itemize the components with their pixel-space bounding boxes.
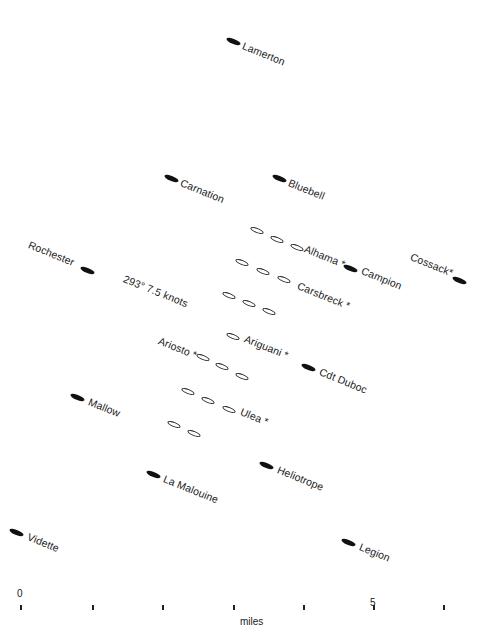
scale-tick xyxy=(443,605,445,610)
merchant-ship-icon xyxy=(262,307,277,317)
escort-ship-icon xyxy=(259,460,275,470)
scale-tick xyxy=(303,605,305,610)
escort-ship-icon xyxy=(70,392,86,402)
merchant-ship-icon xyxy=(215,362,230,372)
escort-ship-icon xyxy=(9,527,25,537)
scale-tick xyxy=(162,605,164,610)
escort-label: Vidette xyxy=(26,530,61,554)
escort-ship-icon xyxy=(341,537,357,547)
scale-tick xyxy=(20,605,22,610)
escort-ship-icon xyxy=(301,362,317,372)
escort-label: Legion xyxy=(358,540,392,563)
scale-unit-label: miles xyxy=(240,616,263,627)
merchant-ship-icon xyxy=(235,258,250,268)
merchant-ship-icon xyxy=(226,332,241,342)
merchant-ship-icon xyxy=(270,235,285,245)
merchant-label: Ulea * xyxy=(239,405,271,427)
escort-label: Cossack* xyxy=(409,250,455,278)
merchant-ship-icon xyxy=(242,299,257,309)
escort-ship-icon xyxy=(272,173,288,183)
escort-label: Rochester xyxy=(27,238,77,267)
merchant-ship-icon xyxy=(222,405,237,415)
escort-label: Cdt Duboc xyxy=(318,365,369,395)
merchant-label: Carsbreck * xyxy=(296,279,352,311)
merchant-ship-icon xyxy=(256,267,271,277)
merchant-ship-icon xyxy=(290,243,305,253)
merchant-ship-icon xyxy=(250,226,265,236)
scale-tick xyxy=(233,605,235,610)
merchant-label: Ariguani * xyxy=(243,332,291,361)
escort-ship-icon xyxy=(146,469,162,479)
escort-ship-icon xyxy=(452,275,468,285)
merchant-ship-icon xyxy=(201,396,216,406)
merchant-ship-icon xyxy=(181,387,196,397)
escort-label: Carnation xyxy=(179,176,227,205)
merchant-ship-icon xyxy=(235,372,250,382)
scale-start-label: 0 xyxy=(17,588,23,599)
course-label: 293° 7.5 knots xyxy=(122,272,190,309)
convoy-diagram: LamertonCarnationBluebellCampionCossack*… xyxy=(0,0,480,633)
escort-ship-icon xyxy=(80,265,96,275)
merchant-ship-icon xyxy=(277,275,292,285)
escort-label: Lamerton xyxy=(241,39,287,67)
escort-label: Heliotrope xyxy=(276,463,326,492)
merchant-ship-icon xyxy=(187,429,202,439)
escort-label: Mallow xyxy=(87,395,122,419)
escort-label: Campion xyxy=(360,264,404,291)
scale-tick xyxy=(373,605,375,610)
merchant-ship-icon xyxy=(222,291,237,301)
merchant-label: Alhama * xyxy=(303,242,348,269)
merchant-label: Ariosto * xyxy=(157,334,199,360)
escort-ship-icon xyxy=(164,173,180,183)
merchant-ship-icon xyxy=(196,353,211,363)
merchant-ship-icon xyxy=(167,420,182,430)
escort-label: Bluebell xyxy=(287,176,327,201)
escort-label: La Malouine xyxy=(162,472,221,505)
scale-tick xyxy=(92,605,94,610)
escort-ship-icon xyxy=(226,36,242,46)
